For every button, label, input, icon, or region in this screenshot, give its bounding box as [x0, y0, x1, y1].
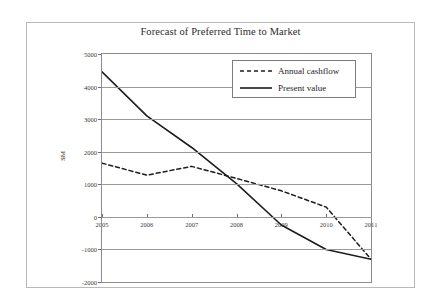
legend-swatch-dashed	[239, 66, 273, 76]
y-axis-tick-label: 5000	[57, 51, 97, 58]
chart-title: Forecast of Preferred Time to Market	[26, 26, 415, 37]
y-axis-tick-label: 0	[57, 213, 97, 220]
y-axis-tick-label: 2000	[57, 148, 97, 155]
chart-figure: Forecast of Preferred Time to Market $M …	[0, 0, 442, 302]
legend-label-annual-cashflow: Annual cashflow	[278, 66, 339, 76]
legend-entry-annual-cashflow: Annual cashflow	[239, 64, 339, 78]
gridline	[102, 184, 371, 185]
y-axis-tick-label: 3000	[57, 116, 97, 123]
legend-swatch-solid	[239, 83, 273, 93]
gridline	[102, 249, 371, 250]
series-line-present-value	[102, 72, 371, 259]
legend-label-present-value: Present value	[278, 83, 326, 93]
series-line-annual-cashflow	[102, 163, 371, 259]
legend-entry-present-value: Present value	[239, 81, 326, 95]
gridline	[102, 217, 371, 218]
gridline	[102, 119, 371, 120]
y-axis-tick-label: 1000	[57, 181, 97, 188]
y-axis-tick-label: -2000	[57, 279, 97, 286]
gridline	[102, 152, 371, 153]
y-axis-tick-label: 4000	[57, 83, 97, 90]
y-axis-tick-label: -1000	[57, 246, 97, 253]
chart-legend: Annual cashflow Present value	[232, 60, 356, 98]
